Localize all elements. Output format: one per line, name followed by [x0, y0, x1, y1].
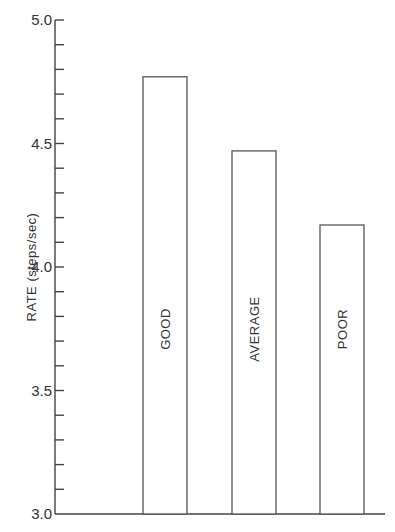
- bar-rect: [320, 225, 364, 514]
- bar-label: GOOD: [158, 308, 173, 350]
- bar-poor: POOR: [320, 225, 364, 514]
- bar-good: GOOD: [143, 77, 187, 514]
- bar-chart: 3.03.54.04.55.0 GOODAVERAGEPOOR RATE (st…: [0, 0, 395, 532]
- bar-label: POOR: [335, 309, 350, 349]
- y-tick-label: 5.0: [31, 11, 52, 28]
- y-tick-label: 4.5: [31, 135, 52, 152]
- y-axis-title: RATE (steps/sec): [24, 213, 39, 322]
- bars: GOODAVERAGEPOOR: [143, 77, 364, 514]
- y-tick-label: 3.5: [31, 382, 52, 399]
- bar-rect: [143, 77, 187, 514]
- y-tick-label: 3.0: [31, 505, 52, 522]
- bar-label: AVERAGE: [247, 296, 262, 361]
- bar-average: AVERAGE: [232, 151, 276, 514]
